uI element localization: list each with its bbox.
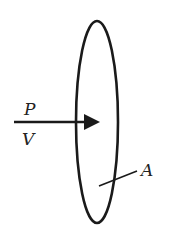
- label-velocity: V: [22, 129, 36, 149]
- flow-arrow-head-icon: [84, 114, 100, 130]
- diagram-canvas: P V A: [0, 0, 177, 241]
- label-power: P: [23, 99, 36, 119]
- label-area: A: [139, 160, 153, 180]
- area-leader-line: [99, 171, 137, 186]
